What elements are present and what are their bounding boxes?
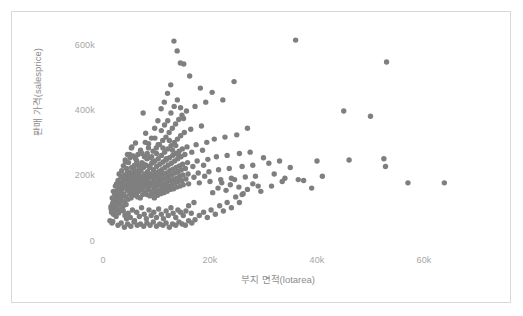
scatter-point xyxy=(253,174,258,179)
scatter-point xyxy=(151,210,156,215)
scatter-point xyxy=(165,118,170,123)
scatter-point xyxy=(141,162,146,167)
scatter-point xyxy=(139,205,144,210)
scatter-point xyxy=(170,126,175,131)
scatter-point xyxy=(143,131,148,136)
scatter-point xyxy=(160,145,165,150)
scatter-point xyxy=(206,169,211,174)
scatter-point xyxy=(229,205,234,210)
y-tick-400k: 400k xyxy=(53,105,95,115)
scatter-point xyxy=(272,171,277,176)
scatter-point xyxy=(216,167,221,172)
scatter-point xyxy=(213,212,218,217)
scatter-point xyxy=(123,159,128,164)
scatter-point xyxy=(183,166,188,171)
scatter-point xyxy=(233,194,238,199)
scatter-point xyxy=(129,144,134,149)
scatter-point xyxy=(208,207,213,212)
scatter-point xyxy=(239,164,244,169)
scatter-point xyxy=(250,181,255,186)
scatter-point xyxy=(123,202,128,207)
scatter-point xyxy=(190,164,195,169)
scatter-point xyxy=(146,145,151,150)
scatter-point xyxy=(141,212,146,217)
scatter-point xyxy=(207,179,212,184)
scatter-point xyxy=(138,168,143,173)
x-tick-0: 0 xyxy=(83,255,123,265)
scatter-point xyxy=(163,156,168,161)
scatter-point xyxy=(221,208,226,213)
scatter-point xyxy=(183,176,188,181)
scatter-point xyxy=(133,156,138,161)
scatter-point xyxy=(194,158,199,163)
scatter-point xyxy=(181,213,186,218)
scatter-point xyxy=(144,156,149,161)
scatter-point xyxy=(191,200,196,205)
scatter-point xyxy=(189,149,194,154)
x-axis-title: 부지 면적(lotarea) xyxy=(148,272,408,286)
scatter-point xyxy=(183,223,188,228)
scatter-point xyxy=(381,156,386,161)
scatter-point xyxy=(227,166,232,171)
scatter-point xyxy=(236,184,241,189)
scatter-point xyxy=(175,97,180,102)
scatter-point xyxy=(301,178,306,183)
scatter-point xyxy=(155,118,160,123)
scatter-point xyxy=(167,138,172,143)
x-tick-40k: 40k xyxy=(297,255,337,265)
scatter-point xyxy=(162,99,167,104)
scatter-point xyxy=(205,215,210,220)
scatter-point xyxy=(193,142,198,147)
y-tick-600k: 600k xyxy=(53,40,95,50)
y-axis-title: 판매 가격(salesprice) xyxy=(30,37,44,147)
scatter-point xyxy=(147,165,152,170)
scatter-point xyxy=(269,183,274,188)
scatter-point xyxy=(176,117,181,122)
scatter-point xyxy=(346,157,351,162)
scatter-point xyxy=(183,208,188,213)
scatter-point xyxy=(320,174,325,179)
scatter-point xyxy=(181,61,186,66)
scatter-point xyxy=(220,97,225,102)
scatter-point xyxy=(182,130,187,135)
scatter-point xyxy=(185,160,190,165)
scatter-point xyxy=(288,165,293,170)
scatter-point xyxy=(232,177,237,182)
y-tick-0: 0 xyxy=(53,236,95,246)
scatter-point xyxy=(178,105,183,110)
scatter-point xyxy=(143,140,148,145)
scatter-point xyxy=(186,203,191,208)
scatter-point xyxy=(125,169,130,174)
scatter-point xyxy=(149,154,154,159)
scatter-point xyxy=(219,180,224,185)
scatter-point xyxy=(168,82,173,87)
scatter-point xyxy=(231,79,236,84)
scatter-point xyxy=(203,99,208,104)
scatter-point xyxy=(152,135,157,140)
scatter-point xyxy=(215,185,220,190)
scatter-point xyxy=(314,158,319,163)
scatter-point xyxy=(185,171,190,176)
scatter-point xyxy=(189,211,194,216)
scatter-point xyxy=(200,147,205,152)
scatter-point xyxy=(154,151,159,156)
scatter-point xyxy=(156,206,161,211)
scatter-point xyxy=(198,85,203,90)
scatter-point xyxy=(209,90,214,95)
scatter-point xyxy=(224,153,229,158)
x-tick-20k: 20k xyxy=(190,255,230,265)
scatter-point xyxy=(214,154,219,159)
scatter-point xyxy=(196,170,201,175)
scatter-point xyxy=(184,144,189,149)
scatter-point xyxy=(165,91,170,96)
scatter-point xyxy=(173,143,178,148)
scatter-point xyxy=(191,175,196,180)
scatter-point xyxy=(152,126,157,131)
scatter-point xyxy=(128,215,133,220)
scatter-point xyxy=(266,161,271,166)
scatter-point xyxy=(293,37,298,42)
scatter-point xyxy=(192,104,197,109)
scatter-point xyxy=(170,147,175,152)
scatter-point xyxy=(255,183,260,188)
scatter-point xyxy=(199,123,204,128)
